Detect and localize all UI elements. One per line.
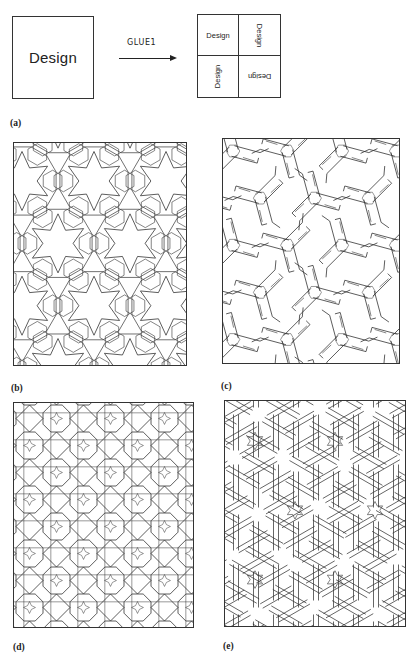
- cell-label: Design: [255, 23, 264, 46]
- source-design-label: Design: [29, 49, 77, 66]
- pattern-panel-d: [13, 402, 194, 628]
- pinwheel-tripod-pattern: [223, 139, 400, 364]
- glued-cell-bottom-right: Design: [239, 56, 280, 97]
- pattern-panel-e: [224, 400, 406, 627]
- cell-label: Design: [206, 31, 229, 40]
- glued-design-tile: Design Design Design Design: [197, 14, 281, 98]
- glued-cell-top-left: Design: [198, 15, 239, 56]
- panel-label-a: (a): [10, 118, 21, 128]
- cell-label: Design: [213, 65, 222, 88]
- arrow-shaft: [119, 58, 171, 59]
- panel-label-b: (b): [11, 383, 23, 393]
- glued-cell-top-right: Design: [239, 15, 280, 56]
- glued-cell-bottom-left: Design: [198, 56, 239, 97]
- arrow-right-icon: [170, 55, 177, 61]
- source-design-tile: Design: [12, 16, 94, 99]
- pattern-panel-b: [13, 142, 187, 366]
- glue-operation-label: GLUE1: [127, 38, 156, 47]
- panel-label-c: (c): [221, 381, 232, 391]
- panel-label-e: (e): [223, 641, 234, 651]
- cell-label: Design: [248, 72, 271, 81]
- interlaced-band-pattern: [225, 401, 406, 627]
- six-point-star-pattern: [14, 143, 187, 366]
- glue-operation-arrow: GLUE1: [118, 38, 178, 64]
- panel-label-d: (d): [13, 642, 25, 652]
- pattern-panel-c: [222, 138, 400, 364]
- four-point-star-pattern: [14, 403, 194, 628]
